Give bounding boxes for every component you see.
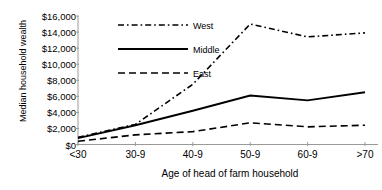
x-axis-tick-label: 50-9 [240,149,260,160]
x-axis-title: Age of head of farm household [78,168,382,179]
chart-container: Median household wealth $16,000$14,000$1… [0,0,382,190]
legend-item-east: East [193,69,211,79]
x-axis-tick-label: 60-9 [298,149,318,160]
legend-item-middle: Middle [193,45,220,55]
x-axis-tick-label: <30 [70,149,87,160]
x-axis-tick-label: >70 [357,149,374,160]
legend-item-west: West [193,21,213,31]
x-axis-tick-label: 40-9 [183,149,203,160]
x-axis-tick-labels: <3030-940-950-960-9>70 [0,0,382,190]
x-axis-tick-label: 30-9 [125,149,145,160]
